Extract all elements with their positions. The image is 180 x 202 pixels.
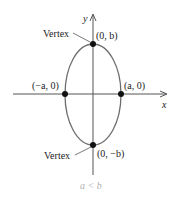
- point-right-covertex: [118, 91, 124, 97]
- vertex-label-bottom: Vertex: [44, 150, 70, 161]
- vertex-label-top: Vertex: [43, 28, 69, 39]
- label-top-point: (0, b): [96, 30, 118, 42]
- point-top-vertex: [90, 41, 96, 47]
- x-axis-label: x: [161, 99, 167, 110]
- vertex-leader-top: [73, 33, 90, 42]
- vertex-leader-bottom: [75, 147, 91, 155]
- label-left-point: (−a, 0): [32, 80, 59, 92]
- label-bottom-point: (0, −b): [97, 148, 124, 160]
- label-right-point: (a, 0): [124, 80, 145, 92]
- y-axis-label: y: [82, 13, 88, 24]
- caption: a < b: [80, 180, 102, 191]
- point-left-covertex: [62, 91, 68, 97]
- ellipse-diagram: x y (0, b) (0, −b) (−a, 0) (a, 0) Vertex…: [0, 0, 180, 202]
